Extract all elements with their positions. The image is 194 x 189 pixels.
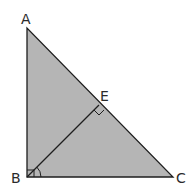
label-e: E [100, 88, 109, 104]
label-c: C [176, 170, 186, 186]
label-a: A [21, 11, 31, 27]
geometry-diagram: A B C E [0, 0, 194, 189]
label-b: B [11, 170, 21, 186]
